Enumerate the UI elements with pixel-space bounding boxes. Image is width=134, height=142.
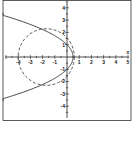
- y-tick-label: -3: [61, 91, 66, 97]
- x-tick-label: -2: [40, 59, 45, 65]
- x-tick-label: 1: [78, 59, 81, 65]
- y-tick-label: 1: [62, 42, 65, 48]
- y-tick-label: -1: [61, 66, 66, 72]
- x-axis-label: x: [127, 49, 130, 55]
- y-tick-label: -4: [61, 103, 66, 109]
- chart-canvas: -4-3-2-1123454321-1-2-3-4x: [0, 0, 134, 142]
- y-tick-label: 3: [62, 17, 65, 23]
- x-tick-label: -3: [28, 59, 33, 65]
- x-tick-label: 4: [114, 59, 117, 65]
- x-tick-label: -4: [16, 59, 21, 65]
- y-tick-label: 2: [62, 29, 65, 35]
- y-tick-label: 4: [62, 5, 65, 11]
- x-tick-label: 3: [102, 59, 105, 65]
- x-tick-label: 5: [127, 59, 130, 65]
- y-tick-label: -2: [61, 78, 66, 84]
- x-tick-label: 2: [90, 59, 93, 65]
- x-tick-label: -1: [53, 59, 58, 65]
